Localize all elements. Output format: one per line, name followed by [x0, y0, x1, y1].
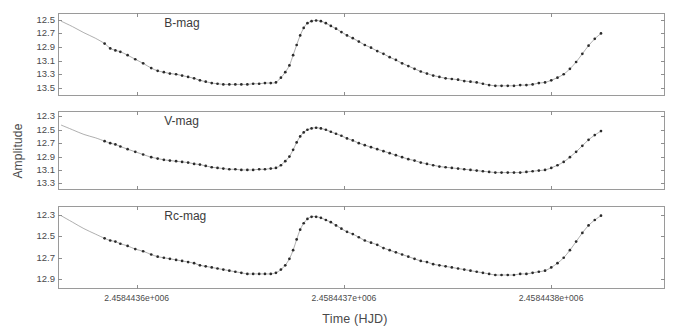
data-point: [284, 71, 287, 74]
data-point: [475, 81, 478, 84]
data-point: [569, 156, 572, 159]
panel-v-mag: V-mag 12.312.512.712.913.113.3: [58, 111, 665, 190]
data-point: [550, 266, 553, 269]
data-point: [329, 25, 332, 28]
data-point: [482, 271, 485, 274]
data-point: [500, 274, 503, 277]
data-point: [346, 137, 349, 140]
data-point: [469, 80, 472, 83]
series-B-mag: [58, 13, 665, 96]
data-point: [329, 130, 332, 133]
data-point: [525, 171, 528, 174]
light-curve-figure: Amplitude Time (HJD) B-mag 12.512.712.91…: [0, 0, 674, 335]
data-point: [469, 269, 472, 272]
data-point: [258, 168, 261, 171]
data-point: [413, 257, 416, 260]
y-tick-label: 12.9: [37, 152, 56, 162]
data-point: [419, 70, 422, 73]
data-point: [199, 79, 202, 82]
data-point: [193, 77, 196, 80]
data-point: [494, 171, 497, 174]
data-point: [288, 64, 291, 67]
data-point: [556, 262, 559, 265]
data-point: [114, 143, 117, 146]
data-point: [199, 264, 202, 267]
data-point: [187, 76, 190, 79]
y-tick-label: 12.5: [37, 231, 56, 241]
data-point: [288, 257, 291, 260]
data-point: [513, 274, 516, 277]
data-point: [175, 73, 178, 76]
data-point: [275, 167, 278, 170]
data-point: [163, 256, 166, 259]
data-point: [114, 240, 117, 243]
data-point: [175, 259, 178, 262]
data-point: [325, 128, 328, 131]
data-point: [519, 273, 522, 276]
x-tick-label: 2.4584438e+006: [519, 293, 584, 303]
data-point: [463, 268, 466, 271]
data-point: [216, 267, 219, 270]
data-point: [216, 82, 219, 85]
data-point: [109, 142, 112, 145]
data-point: [346, 34, 349, 37]
data-point: [228, 168, 231, 171]
data-point: [315, 215, 318, 218]
data-point: [114, 49, 117, 52]
data-point: [310, 215, 313, 218]
data-point: [600, 130, 603, 133]
data-point: [264, 82, 267, 85]
data-point: [432, 164, 435, 167]
data-point: [335, 132, 338, 135]
data-point: [269, 82, 272, 85]
data-point: [519, 84, 522, 87]
data-point: [469, 169, 472, 172]
y-tick-label: 12.9: [37, 275, 56, 285]
data-point: [340, 227, 343, 230]
data-point: [320, 217, 323, 220]
data-point: [444, 77, 447, 80]
data-point: [488, 84, 491, 87]
data-point: [340, 134, 343, 137]
data-point: [482, 170, 485, 173]
data-point: [494, 274, 497, 277]
data-point: [450, 167, 453, 170]
data-point: [506, 171, 509, 174]
data-point: [537, 169, 540, 172]
data-point: [351, 139, 354, 142]
data-point: [284, 160, 287, 163]
data-point: [320, 20, 323, 23]
data-point: [562, 73, 565, 76]
data-point: [575, 240, 578, 243]
data-point: [119, 145, 122, 148]
data-point: [222, 83, 225, 86]
data-point: [222, 167, 225, 170]
data-point: [426, 163, 429, 166]
data-point: [407, 255, 410, 258]
data-point: [531, 271, 534, 274]
data-point: [475, 169, 478, 172]
data-point: [142, 250, 145, 253]
data-point: [513, 84, 516, 87]
data-point: [150, 156, 153, 159]
y-tick-label: 13.1: [37, 56, 56, 66]
data-point: [103, 237, 106, 240]
y-tick-label: 12.7: [37, 29, 56, 39]
data-point: [593, 38, 596, 41]
data-point: [156, 255, 159, 258]
data-point: [388, 152, 391, 155]
data-point: [376, 243, 379, 246]
y-tick-label: 13.5: [37, 83, 56, 93]
data-point: [169, 257, 172, 260]
data-point: [450, 266, 453, 269]
data-point: [562, 256, 565, 259]
data-point: [258, 273, 261, 276]
data-point: [252, 273, 255, 276]
data-point: [376, 148, 379, 151]
data-point: [126, 148, 129, 151]
data-point: [463, 80, 466, 83]
data-point: [210, 266, 213, 269]
y-tick-label: 12.9: [37, 42, 56, 52]
data-point: [103, 140, 106, 143]
data-point: [382, 52, 385, 55]
